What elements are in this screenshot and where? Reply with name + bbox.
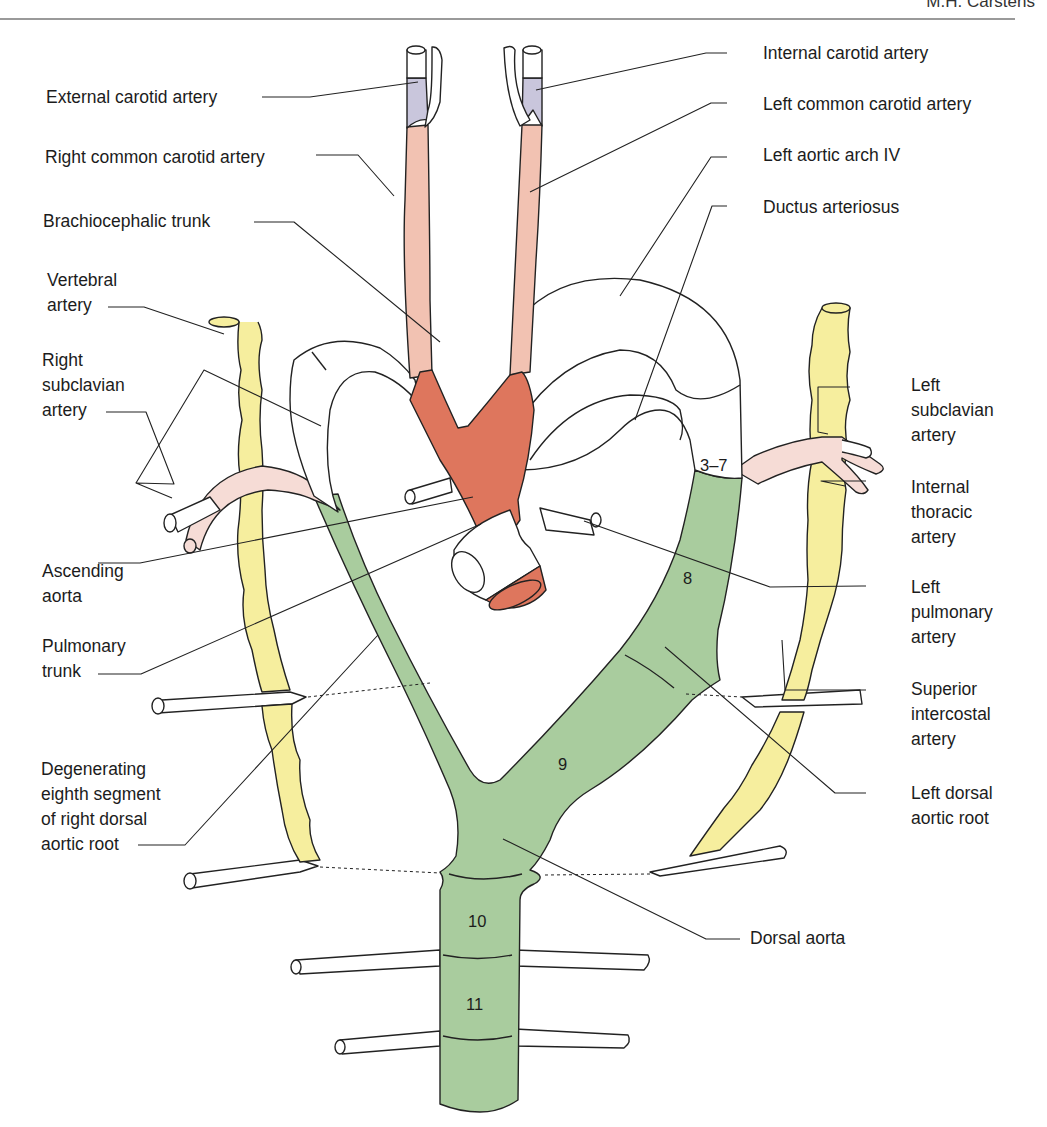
label-right-common-carotid-artery: Right common carotid artery	[45, 145, 265, 170]
label-vertebral-artery: Vertebral artery	[47, 268, 117, 318]
right-carotid-branch	[425, 47, 442, 127]
segmental-11-left	[340, 1031, 440, 1054]
segmental-10-right	[515, 950, 649, 970]
segmental-10-left	[296, 950, 440, 974]
label-pulmonary-trunk: Pulmonary trunk	[42, 634, 126, 684]
segment-10: 10	[468, 912, 486, 931]
label-internal-carotid-artery: Internal carotid artery	[763, 41, 928, 66]
label-left-pulmonary-artery: Left pulmonary artery	[911, 575, 993, 650]
label-left-common-carotid-artery: Left common carotid artery	[763, 92, 971, 117]
segment-9: 9	[558, 755, 567, 774]
label-brachiocephalic-trunk: Brachiocephalic trunk	[43, 209, 210, 234]
right-aortic-arch	[290, 341, 420, 512]
segment-11: 11	[466, 995, 483, 1014]
right-common-carotid	[404, 125, 432, 378]
label-ductus-arteriosus: Ductus arteriosus	[763, 195, 899, 220]
segment-8: 8	[683, 569, 692, 588]
label-ascending-aorta: Ascending aorta	[42, 559, 124, 609]
segment-3-7: 3–7	[700, 456, 728, 475]
dotted-line-3	[320, 867, 440, 873]
label-external-carotid-artery: External carotid artery	[46, 85, 217, 110]
label-left-subclavian-artery: Left subclavian artery	[911, 373, 994, 448]
label-degenerating-eighth-segment: Degenerating eighth segment of right dor…	[41, 757, 161, 857]
left-aortic-arch	[518, 278, 742, 478]
label-internal-thoracic-artery: Internal thoracic artery	[911, 475, 972, 550]
label-dorsal-aorta: Dorsal aorta	[750, 926, 845, 951]
label-left-aortic-arch-iv: Left aortic arch IV	[763, 143, 900, 168]
right-external-carotid	[407, 78, 428, 128]
label-left-dorsal-aortic-root: Left dorsal aortic root	[911, 781, 993, 831]
right-pulmonary-stub	[410, 478, 452, 504]
label-right-subclavian-artery: Right subclavian artery	[42, 348, 125, 423]
segmental-11-right	[515, 1029, 629, 1048]
label-superior-intercostal-artery: Superior intercostal artery	[911, 677, 991, 752]
dotted-line-4	[545, 874, 650, 875]
intercostal-branch-left-2	[190, 860, 318, 888]
